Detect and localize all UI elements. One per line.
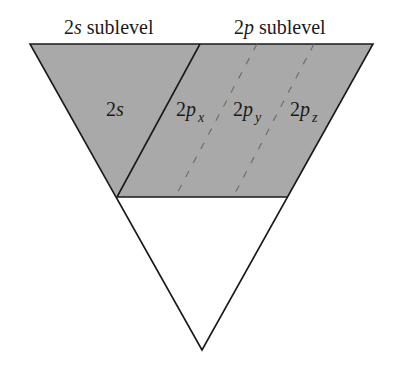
s-sublevel-header: 2s sublevel bbox=[64, 16, 154, 38]
orbital-label-2s: 2s bbox=[106, 98, 124, 120]
orbital-sublevel-diagram: 2s sublevel 2p sublevel 2s 2px 2py 2pz bbox=[0, 0, 396, 380]
p-sublevel-header: 2p sublevel bbox=[234, 16, 326, 39]
